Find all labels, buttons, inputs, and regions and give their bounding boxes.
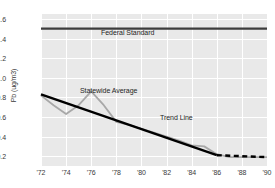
- trend-line-solid: [41, 94, 217, 155]
- statewide-average: [41, 91, 267, 157]
- chart-root: Pb (ug/m3) 0.20.40.60.81.01.21.41.6 '72'…: [0, 0, 275, 188]
- annotation-federal-standard: Federal Standard: [101, 29, 154, 36]
- annotation-trend-line: Trend Line: [160, 114, 193, 121]
- annotation-statewide-average: Statewide Average: [80, 87, 137, 94]
